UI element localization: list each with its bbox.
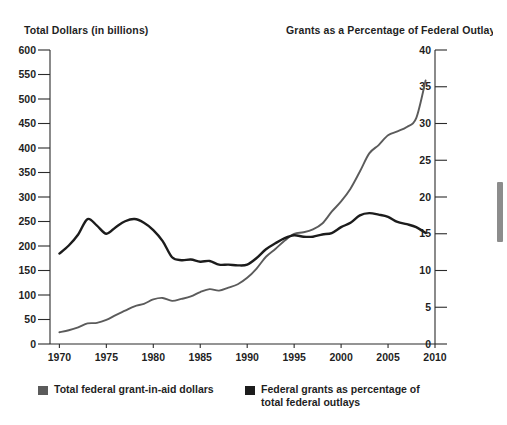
x-axis-tick-label: 2005	[376, 351, 400, 363]
y2-axis-tick-label: 30	[419, 117, 431, 129]
series-line-dollars	[59, 80, 425, 332]
y-axis-tick-label: 600	[18, 44, 36, 56]
y-axis-tick-label: 550	[18, 68, 36, 80]
x-axis-tick-label: 1970	[48, 351, 72, 363]
x-axis-tick-label: 2000	[329, 351, 353, 363]
legend-item: Federal grants as percentage of total fe…	[245, 383, 430, 409]
chart-figure: Total Dollars (in billions) Grants as a …	[0, 0, 507, 425]
dual-axis-line-chart: 0501001502002503003504004505005506000510…	[0, 0, 507, 425]
y-axis-tick-label: 450	[18, 117, 36, 129]
legend-swatch-percent	[245, 386, 255, 395]
series-line-percent	[59, 213, 425, 265]
legend-label: Federal grants as percentage of total fe…	[261, 383, 430, 409]
y-axis-tick-label: 300	[18, 191, 36, 203]
x-axis-tick-label: 1980	[142, 351, 166, 363]
vertical-scrollbar-thumb[interactable]	[497, 182, 503, 242]
legend-item: Total federal grant-in-aid dollars	[38, 383, 223, 409]
plot-area: 0501001502002503003504004505005506000510…	[0, 0, 507, 425]
x-axis-tick-label: 1995	[282, 351, 306, 363]
y-axis-tick-label: 350	[18, 166, 36, 178]
y-axis-tick-label: 200	[18, 240, 36, 252]
y2-axis-tick-label: 25	[419, 154, 431, 166]
x-axis-tick-label: 1985	[189, 351, 213, 363]
y-axis-tick-label: 250	[18, 215, 36, 227]
x-axis-tick-label: 1975	[95, 351, 119, 363]
y-axis-tick-label: 500	[18, 93, 36, 105]
y2-axis-tick-label: 20	[419, 191, 431, 203]
y-axis-tick-label: 0	[30, 338, 36, 350]
chart-legend: Total federal grant-in-aid dollars Feder…	[38, 383, 458, 409]
x-axis-tick-label: 1990	[236, 351, 260, 363]
y-axis-tick-label: 400	[18, 142, 36, 154]
y2-axis-tick-label: 0	[425, 338, 431, 350]
y-axis-tick-label: 100	[18, 289, 36, 301]
y-axis-tick-label: 50	[24, 313, 36, 325]
y2-axis-tick-label: 5	[425, 301, 431, 313]
x-axis-tick-label: 2010	[423, 351, 447, 363]
y2-axis-tick-label: 10	[419, 264, 431, 276]
legend-label: Total federal grant-in-aid dollars	[54, 383, 214, 396]
legend-swatch-dollars	[38, 386, 48, 395]
vertical-scrollbar-track[interactable]	[493, 0, 507, 425]
y-axis-tick-label: 150	[18, 264, 36, 276]
y2-axis-tick-label: 40	[419, 44, 431, 56]
